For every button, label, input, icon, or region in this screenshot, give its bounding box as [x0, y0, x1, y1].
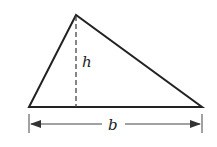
triangle: [29, 15, 202, 107]
arrowhead-right-icon: [190, 120, 201, 128]
base-label: b: [108, 116, 118, 134]
height-label: h: [82, 53, 92, 71]
arrowhead-left-icon: [30, 120, 41, 128]
triangle-diagram: h b: [0, 0, 217, 147]
